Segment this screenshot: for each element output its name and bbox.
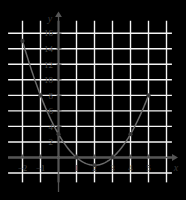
data-point — [146, 93, 150, 97]
x-tick-label: 5 — [146, 163, 151, 173]
x-tick-label: 3 — [110, 163, 115, 173]
data-point — [110, 155, 114, 159]
data-point — [38, 93, 42, 97]
y-tick-label: 10 — [44, 75, 54, 85]
y-tick-label: 14 — [44, 44, 54, 54]
x-tick-label: −1 — [36, 163, 46, 173]
y-axis-label: y — [47, 13, 53, 24]
y-tick-label: 2 — [49, 137, 54, 147]
data-point — [92, 163, 96, 167]
x-axis-label: x — [173, 162, 179, 173]
x-tick-label: −2 — [18, 163, 28, 173]
data-point — [20, 39, 24, 43]
x-tick-label: 1 — [74, 163, 79, 173]
data-point — [74, 155, 78, 159]
graph-figure: −2−112345 246810121416 x y — [0, 0, 186, 200]
coordinate-plane: −2−112345 246810121416 x y — [0, 0, 186, 200]
y-tick-label: 8 — [49, 91, 54, 101]
x-tick-label: 4 — [128, 163, 133, 173]
data-point — [56, 132, 60, 136]
y-tick-label: 12 — [44, 60, 53, 70]
y-tick-label: 16 — [44, 28, 54, 38]
data-point — [128, 132, 132, 136]
